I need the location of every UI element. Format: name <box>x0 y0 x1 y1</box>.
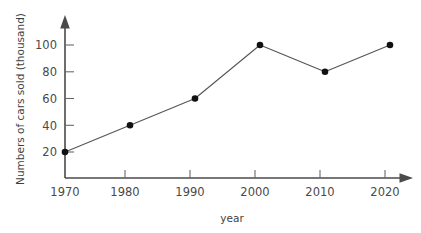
data-point-2010 <box>322 68 329 75</box>
data-series-line <box>65 45 390 152</box>
data-point-1990 <box>192 95 199 102</box>
y-axis-arrow-icon <box>60 15 70 29</box>
x-axis-ticks <box>125 170 385 178</box>
data-point-1970 <box>62 149 69 156</box>
x-axis <box>65 173 413 183</box>
y-tick-label-60: 60 <box>42 92 57 106</box>
x-tick-label-1990: 1990 <box>175 185 204 199</box>
chart-canvas: 20 40 60 80 100 1970 1980 1990 2000 2010… <box>0 0 421 233</box>
x-tick-label-1980: 1980 <box>110 185 139 199</box>
y-tick-label-40: 40 <box>42 119 57 133</box>
x-tick-label-2010: 2010 <box>305 185 334 199</box>
y-axis-title: Numbers of cars sold (thousand) <box>14 13 26 185</box>
x-tick-label-1970: 1970 <box>50 185 79 199</box>
data-point-1980 <box>127 122 134 129</box>
x-tick-label-2000: 2000 <box>240 185 269 199</box>
data-point-2020 <box>387 42 394 49</box>
data-point-markers <box>62 42 394 156</box>
y-axis-ticks <box>65 45 74 152</box>
data-point-2000 <box>257 42 264 49</box>
y-tick-label-100: 100 <box>35 38 57 52</box>
x-tick-label-2020: 2020 <box>370 185 399 199</box>
y-axis-tick-labels: 20 40 60 80 100 <box>35 38 57 159</box>
y-tick-label-20: 20 <box>42 145 57 159</box>
x-axis-arrow-icon <box>400 173 414 183</box>
x-axis-tick-labels: 1970 1980 1990 2000 2010 2020 <box>50 185 399 199</box>
y-tick-label-80: 80 <box>42 65 57 79</box>
line-chart-figure: 20 40 60 80 100 1970 1980 1990 2000 2010… <box>0 0 421 233</box>
x-axis-title: year <box>220 212 244 224</box>
